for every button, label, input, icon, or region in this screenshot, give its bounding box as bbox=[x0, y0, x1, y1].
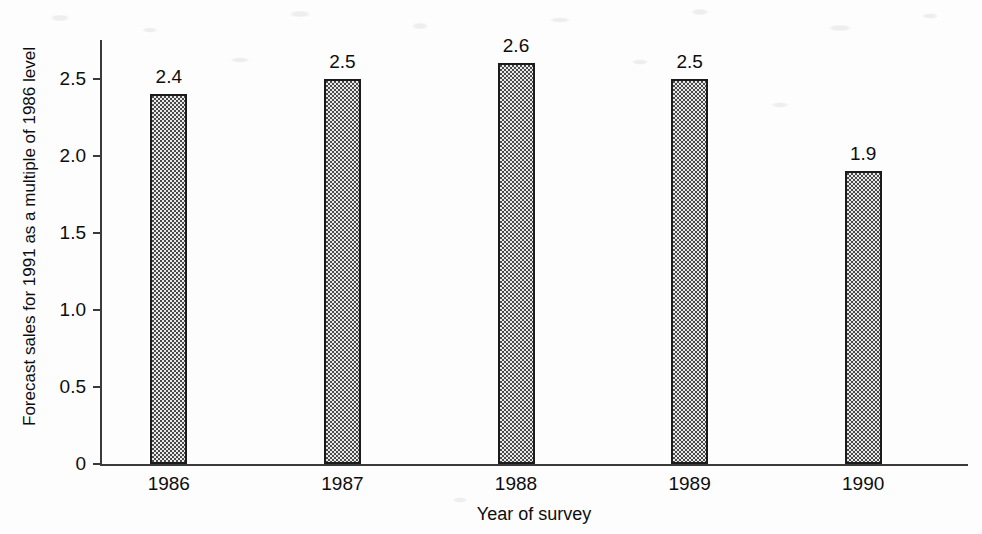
y-axis-tick-label: 2.0 bbox=[0, 146, 86, 165]
y-axis-tick-mark bbox=[93, 155, 101, 157]
x-axis-tick-label-1988: 1988 bbox=[466, 474, 566, 493]
bar-value-label-1987: 2.5 bbox=[307, 52, 377, 71]
x-axis-line bbox=[100, 464, 968, 466]
x-axis-tick-label-1986: 1986 bbox=[119, 474, 219, 493]
bar-value-label-1988: 2.6 bbox=[481, 36, 551, 55]
y-axis-line bbox=[100, 40, 102, 466]
plot-area: Forecast sales for 1991 as a multiple of… bbox=[0, 0, 982, 534]
y-axis-tick-label: 0.5 bbox=[0, 377, 86, 396]
y-axis-tick-mark bbox=[93, 232, 101, 234]
x-axis-tick-label-1989: 1989 bbox=[640, 474, 740, 493]
y-axis-tick-mark bbox=[93, 386, 101, 388]
bar-1989[interactable] bbox=[671, 79, 708, 464]
bar-1990[interactable] bbox=[845, 171, 882, 464]
x-axis-tick-label-1990: 1990 bbox=[813, 474, 913, 493]
bar-1987[interactable] bbox=[324, 79, 361, 464]
y-axis-tick-label: 2.5 bbox=[0, 69, 86, 88]
x-axis-tick-label-1987: 1987 bbox=[292, 474, 392, 493]
bar-value-label-1986: 2.4 bbox=[134, 67, 204, 86]
y-axis-tick-mark bbox=[93, 78, 101, 80]
y-axis-tick-mark bbox=[93, 309, 101, 311]
chart-figure: Forecast sales for 1991 as a multiple of… bbox=[0, 0, 982, 534]
y-axis-tick-label: 1.5 bbox=[0, 223, 86, 242]
bar-value-label-1990: 1.9 bbox=[828, 144, 898, 163]
y-axis-tick-mark bbox=[93, 463, 101, 465]
bar-1988[interactable] bbox=[498, 63, 535, 464]
bar-1986[interactable] bbox=[150, 94, 187, 464]
bar-value-label-1989: 2.5 bbox=[655, 52, 725, 71]
y-axis-tick-label: 0 bbox=[0, 454, 86, 473]
x-axis-title: Year of survey bbox=[100, 505, 968, 523]
y-axis-tick-label: 1.0 bbox=[0, 300, 86, 319]
